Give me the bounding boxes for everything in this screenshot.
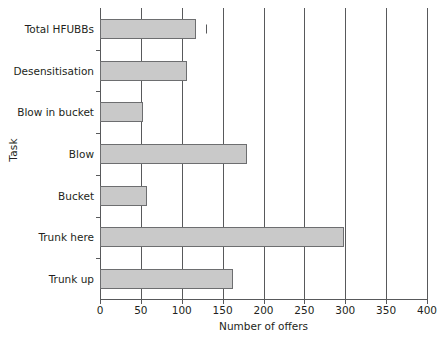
y-axis-tick-label: Total HFUBBs: [12, 24, 94, 35]
y-axis-tick-labels: Trunk upTrunk hereBucketBlowBlow in buck…: [16, 8, 98, 300]
y-axis-tick: [96, 258, 100, 259]
y-axis-tick: [96, 133, 100, 134]
x-axis-tick-label: 400: [417, 304, 437, 316]
y-axis-tick: [96, 175, 100, 176]
bar: [100, 186, 147, 206]
x-axis-tick-label: 150: [213, 304, 233, 316]
x-axis-tick-label: 100: [172, 304, 192, 316]
bar: [100, 144, 247, 164]
plot-area: [100, 8, 427, 300]
gridline: [264, 8, 265, 300]
x-axis-tick-label: 0: [97, 304, 104, 316]
y-axis-tick: [96, 91, 100, 92]
bar: [100, 102, 143, 122]
gridline: [304, 8, 305, 300]
x-axis-tick-label: 250: [294, 304, 314, 316]
gridline: [345, 8, 346, 300]
bar: [100, 227, 344, 247]
x-axis-tick-label: 50: [134, 304, 147, 316]
bar: [100, 61, 187, 81]
bar-chart: Task Trunk upTrunk hereBucketBlowBlow in…: [0, 0, 438, 340]
y-axis-tick-label: Trunk here: [12, 232, 94, 243]
y-axis-tick-label: Trunk up: [12, 274, 94, 285]
bar: [100, 269, 233, 289]
x-axis-tick-label: 300: [335, 304, 355, 316]
y-axis-tick: [96, 50, 100, 51]
gridline: [386, 8, 387, 300]
gridline: [427, 8, 428, 300]
y-axis-tick-label: Blow in bucket: [12, 107, 94, 118]
y-axis-tick: [96, 217, 100, 218]
x-axis-title: Number of offers: [100, 320, 427, 332]
y-axis-tick-label: Blow: [12, 149, 94, 160]
bar: [100, 19, 196, 39]
tick-mark-total-hfubbs: [206, 24, 207, 33]
y-axis-tick-label: Bucket: [12, 190, 94, 201]
x-axis-tick-label: 350: [376, 304, 396, 316]
y-axis-tick-label: Desensitisation: [12, 65, 94, 76]
x-axis-tick-label: 200: [253, 304, 273, 316]
